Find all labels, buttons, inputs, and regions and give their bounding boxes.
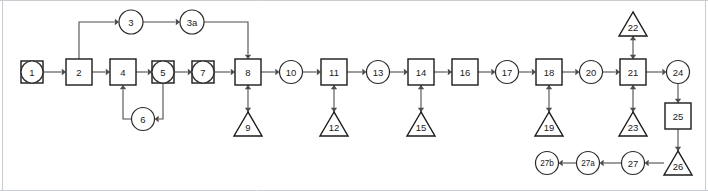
diagram-canvas: 1233a45678910111213141516171819202122232… <box>0 0 708 191</box>
node-square-outline <box>235 59 261 85</box>
node-27a[interactable]: 27a <box>577 152 600 175</box>
edge-14-to-15 <box>418 85 424 112</box>
node-triangle-outline <box>664 151 692 175</box>
node-circle-outline <box>496 61 519 84</box>
node-18[interactable]: 18 <box>536 59 562 85</box>
edge-18-to-19 <box>546 85 552 112</box>
node-square-outline <box>620 59 646 85</box>
edge-20-to-21 <box>603 69 621 75</box>
edge-5-to-7 <box>174 69 192 75</box>
edge-14-to-16 <box>434 69 452 75</box>
edge-27a-to-27b <box>559 160 577 166</box>
node-square-outline <box>110 59 136 85</box>
edge-5-to-6 <box>155 83 164 122</box>
node-2[interactable]: 2 <box>66 59 92 85</box>
node-circle-outline <box>667 61 690 84</box>
node-square-outline <box>321 59 347 85</box>
node-triangle-outline <box>234 112 262 136</box>
arrowhead-icon <box>115 19 119 25</box>
node-21[interactable]: 21 <box>620 59 646 85</box>
arrowhead-icon <box>645 160 649 166</box>
node-14[interactable]: 14 <box>408 59 434 85</box>
node-circle-outline <box>536 152 559 175</box>
node-22[interactable]: 22 <box>619 12 647 36</box>
arrowhead-icon <box>575 69 579 75</box>
node-15[interactable]: 15 <box>407 112 435 136</box>
edge-21-to-22 <box>630 36 636 59</box>
node-3a[interactable]: 3a <box>180 10 204 34</box>
node-4[interactable]: 4 <box>110 59 136 85</box>
node-17[interactable]: 17 <box>496 61 519 84</box>
edge-10-to-11 <box>303 69 322 75</box>
edge-21-to-23 <box>630 85 636 112</box>
edge-11-to-12 <box>331 85 337 112</box>
flowchart-svg: 1233a45678910111213141516171819202122232… <box>0 0 708 191</box>
node-circle-outline <box>180 10 204 34</box>
edge-1-to-2 <box>43 69 66 75</box>
edge-7-to-8 <box>214 69 235 75</box>
arrowhead-icon <box>491 69 495 75</box>
edge-18-to-20 <box>562 69 580 75</box>
edge-24-to-25 <box>675 84 681 104</box>
edge-21-to-24 <box>646 69 667 75</box>
edge-path <box>204 22 248 55</box>
node-5[interactable]: 5 <box>152 61 174 83</box>
edge-6-to-4 <box>120 85 132 119</box>
node-circle-outline <box>132 108 155 131</box>
node-20[interactable]: 20 <box>580 61 603 84</box>
node-circle-outline <box>577 152 600 175</box>
node-13[interactable]: 13 <box>367 61 390 84</box>
node-triangle-outline <box>407 112 435 136</box>
edge-layer <box>43 19 681 166</box>
node-circle-outline <box>152 61 174 83</box>
node-triangle-outline <box>535 112 563 136</box>
edge-11-to-13 <box>347 69 367 75</box>
edge-2-to-3 <box>79 19 119 59</box>
arrowhead-icon <box>600 160 604 166</box>
node-26[interactable]: 26 <box>664 151 692 175</box>
edge-4-to-5 <box>136 69 152 75</box>
node-11[interactable]: 11 <box>321 59 347 85</box>
arrowhead-icon <box>662 69 666 75</box>
node-triangle-outline <box>320 112 348 136</box>
node-square-outline <box>408 59 434 85</box>
node-9[interactable]: 9 <box>234 112 262 136</box>
arrowhead-icon <box>155 116 159 122</box>
edge-8-to-9 <box>245 85 251 112</box>
node-circle-outline <box>21 61 43 83</box>
node-10[interactable]: 10 <box>280 61 303 84</box>
edge-13-to-14 <box>390 69 409 75</box>
edge-path <box>123 90 132 120</box>
node-circle-outline <box>119 10 143 34</box>
node-triangle-outline <box>619 12 647 36</box>
arrowhead-icon <box>559 160 563 166</box>
edge-17-to-18 <box>519 69 537 75</box>
node-25[interactable]: 25 <box>665 103 691 129</box>
node-triangle-outline <box>619 112 647 136</box>
edge-16-to-17 <box>478 69 496 75</box>
node-1[interactable]: 1 <box>21 61 43 83</box>
node-27[interactable]: 27 <box>622 152 645 175</box>
edge-2-to-4 <box>92 69 110 75</box>
node-6[interactable]: 6 <box>132 108 155 131</box>
edge-path <box>159 83 163 119</box>
node-16[interactable]: 16 <box>452 59 478 85</box>
arrowhead-icon <box>362 69 366 75</box>
node-layer: 1233a45678910111213141516171819202122232… <box>21 10 692 175</box>
node-24[interactable]: 24 <box>667 61 690 84</box>
node-7[interactable]: 7 <box>192 61 214 83</box>
node-square-outline <box>665 103 691 129</box>
edge-3a-to-8 <box>204 22 251 59</box>
node-circle-outline <box>580 61 603 84</box>
node-circle-outline <box>622 152 645 175</box>
node-23[interactable]: 23 <box>619 112 647 136</box>
node-8[interactable]: 8 <box>235 59 261 85</box>
node-square-outline <box>536 59 562 85</box>
node-27b[interactable]: 27b <box>536 152 559 175</box>
node-19[interactable]: 19 <box>535 112 563 136</box>
arrowhead-icon <box>176 19 180 25</box>
node-circle-outline <box>192 61 214 83</box>
node-12[interactable]: 12 <box>320 112 348 136</box>
node-3[interactable]: 3 <box>119 10 143 34</box>
edge-3-to-3a <box>143 19 180 25</box>
